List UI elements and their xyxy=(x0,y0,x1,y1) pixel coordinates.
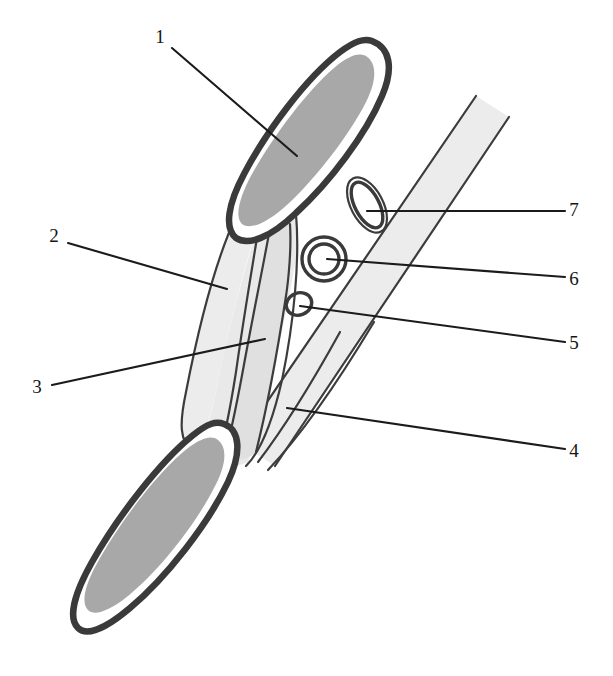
label-number-1: 1 xyxy=(155,26,165,47)
anatomical-diagram-svg: 1 2 3 4 5 6 7 xyxy=(0,0,613,676)
figure-root: 1 2 3 4 5 6 7 xyxy=(0,0,613,676)
label-number-6: 6 xyxy=(569,268,579,289)
label-number-4: 4 xyxy=(569,440,579,461)
label-number-7: 7 xyxy=(569,199,579,220)
label-number-3: 3 xyxy=(32,376,42,397)
label-number-2: 2 xyxy=(49,225,59,246)
label-number-5: 5 xyxy=(569,332,579,353)
